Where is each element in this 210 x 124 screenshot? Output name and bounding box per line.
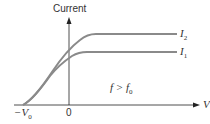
stopping-voltage-label: −V0	[14, 106, 32, 121]
y-axis-arrow-icon	[67, 17, 72, 24]
x-axis-label: V	[203, 98, 210, 110]
y-axis-label: Current	[53, 3, 86, 14]
origin-label: 0	[66, 107, 72, 118]
x-axis-arrow-icon	[193, 103, 200, 108]
curve-i2	[23, 34, 177, 105]
curve-label-i1: I1	[180, 45, 187, 60]
x-axis	[14, 103, 200, 108]
y-axis	[67, 17, 72, 105]
curve-label-i2: I2	[180, 27, 187, 42]
curve-i1	[23, 52, 177, 105]
frequency-condition-label: f > f0	[110, 81, 133, 96]
